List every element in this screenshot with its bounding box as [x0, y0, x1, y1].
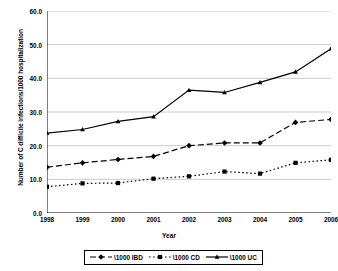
chart-container: Number of C difficile infections/1000 ho… — [0, 0, 338, 271]
x-tick-label: 2003 — [217, 216, 231, 223]
legend-item[interactable]: \1000 IBD — [90, 253, 143, 262]
legend-item[interactable]: \1000 UC — [206, 253, 257, 262]
x-tick-label: 2000 — [111, 216, 125, 223]
x-tick-label: 1998 — [40, 216, 54, 223]
data-point — [222, 140, 228, 146]
data-point — [258, 172, 262, 176]
data-point — [222, 169, 226, 173]
x-tick-label: 2001 — [146, 216, 160, 223]
x-tick-label: 2005 — [288, 216, 302, 223]
x-tick-label: 1999 — [75, 216, 89, 223]
x-tick-label: 2002 — [182, 216, 196, 223]
x-axis-label: Year — [0, 232, 338, 239]
legend-label: \1000 UC — [230, 255, 257, 261]
legend-item[interactable]: \1000 CD — [149, 253, 200, 262]
x-tick-label: 2004 — [253, 216, 267, 223]
data-point — [151, 154, 157, 160]
legend-label: \1000 CD — [173, 255, 200, 261]
series-line — [47, 160, 331, 187]
chart-legend: \1000 IBD\1000 CD\1000 UC — [84, 250, 263, 265]
data-point — [186, 143, 192, 149]
data-point — [151, 177, 155, 181]
y-tick-label: 0.0 — [2, 210, 42, 217]
y-axis-label: Number of C difficile infections/1000 ho… — [17, 10, 24, 206]
legend-label: \1000 IBD — [114, 255, 143, 261]
data-point — [329, 158, 331, 162]
data-point — [80, 181, 84, 185]
plot-area: 60.050.040.030.020.010.00.0 199819992000… — [47, 11, 331, 213]
data-point — [80, 160, 86, 166]
data-point — [47, 185, 49, 189]
data-point — [47, 164, 50, 170]
data-point — [115, 157, 121, 163]
data-point — [293, 161, 297, 165]
legend-diamond-icon — [90, 253, 112, 262]
data-point — [116, 181, 120, 185]
data-point — [293, 120, 299, 126]
legend-square-icon — [149, 253, 171, 262]
data-point — [328, 117, 331, 123]
data-point — [257, 140, 263, 146]
legend-triangle-icon — [206, 253, 228, 262]
data-point — [187, 174, 191, 178]
x-tick-label: 2006 — [324, 216, 338, 223]
chart-svg — [47, 11, 331, 213]
